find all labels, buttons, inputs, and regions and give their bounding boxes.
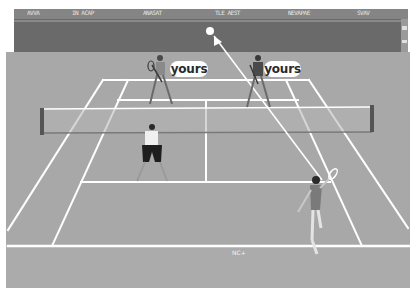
stands-banner: TLE AEST xyxy=(215,9,270,17)
back-wall xyxy=(14,19,401,52)
player-label-far-right: yours xyxy=(264,61,301,77)
hud-indicator: NC+ xyxy=(232,249,246,256)
net-post-left xyxy=(40,108,44,135)
stands-banner: NEVAPAE xyxy=(288,9,346,17)
stands-banner: AVVA xyxy=(27,9,57,17)
net-post-right xyxy=(370,105,374,132)
net xyxy=(40,105,374,135)
tennis-ball[interactable] xyxy=(206,27,214,35)
stands-banner: ANASAT xyxy=(143,9,198,17)
stands-banner: SVAV xyxy=(357,9,385,17)
tennis-court-scene xyxy=(0,0,418,291)
player-label-far-left: yours xyxy=(170,61,208,77)
stands-banner: IN ACAP xyxy=(72,9,122,17)
